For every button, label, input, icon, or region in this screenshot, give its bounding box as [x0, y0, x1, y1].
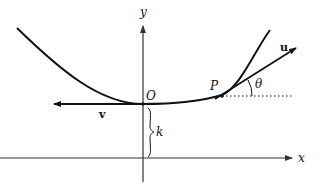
angle-theta-label: θ: [255, 77, 263, 91]
curve-diagram: y x O P θ u v k: [0, 0, 322, 187]
height-k-label: k: [156, 125, 163, 139]
origin-label: O: [146, 89, 156, 103]
vector-u-arrow: [215, 48, 296, 99]
angle-arc: [248, 80, 252, 96]
vector-v-label: v: [98, 108, 106, 121]
origin-point: [141, 102, 145, 106]
brace-k: [148, 108, 154, 157]
point-p-label: P: [209, 79, 219, 93]
point-p: [220, 94, 224, 98]
vector-u-label: u: [280, 41, 288, 54]
x-axis-label: x: [298, 151, 305, 165]
y-axis-label: y: [139, 5, 147, 19]
